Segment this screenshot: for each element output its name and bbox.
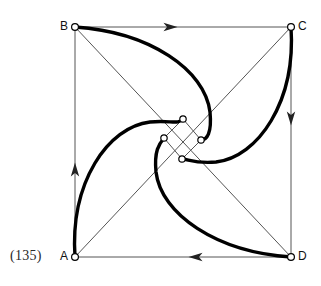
vertex-node-a [72,254,79,261]
vertex-node-c [288,24,295,31]
vertex-label-b: B [60,20,68,32]
vertex-node-b [72,24,79,31]
inner-square-edges-group [164,119,201,159]
figure-canvas: (135) A B C D [0,0,321,286]
inner-square-edge-2 [182,140,201,159]
geometric-figure [0,0,321,286]
vertex-node-d [288,254,295,261]
inner-node-top [180,116,186,122]
inner-square-edge-1 [183,119,201,140]
vertex-label-c: C [298,20,307,32]
inner-node-right [198,137,204,143]
inner-square-edge-3 [164,138,182,159]
vertex-label-a: A [60,250,68,262]
figure-number-caption: (135) [10,248,42,264]
inner-node-left [161,135,167,141]
curve-D [156,138,291,257]
inner-node-bottom [179,156,185,162]
thin-lines-group [75,27,291,257]
vertex-label-d: D [298,250,307,262]
